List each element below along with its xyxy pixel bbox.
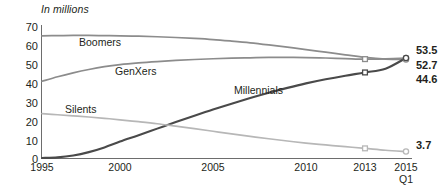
end-marker-silents	[403, 149, 408, 154]
series-label-genxers: GenXers	[115, 66, 156, 77]
end-value-genxers: 44.6	[416, 74, 437, 85]
x-tick-2013-label: 2013	[353, 161, 376, 173]
end-value-silents: 3.7	[416, 140, 431, 151]
marker-2013-genxers	[363, 57, 368, 62]
series-label-millennials: Millennials	[234, 85, 283, 96]
x-tick-2015-quarter: Q1	[390, 173, 422, 185]
x-tick-1995: 1995	[26, 161, 58, 173]
x-tick-2010: 2010	[290, 161, 322, 173]
end-marker-millennials	[403, 55, 408, 60]
x-tick-2015: 2015 Q1	[390, 161, 422, 185]
series-line-genxers	[42, 57, 406, 81]
end-value-boomers: 52.7	[416, 60, 437, 71]
series-line-silents	[42, 114, 406, 152]
series-line-millennials	[42, 58, 406, 158]
x-tick-2010-label: 2010	[294, 161, 317, 173]
x-tick-2005: 2005	[197, 161, 229, 173]
chart-data-markers	[363, 55, 409, 154]
x-tick-2015-label: 2015	[394, 161, 417, 173]
x-tick-2000: 2000	[104, 161, 136, 173]
x-tick-2005-label: 2005	[201, 161, 224, 173]
chart-container: In millions 70 60 50 40 30 20 10 0 Boome…	[0, 0, 441, 189]
chart-series-lines	[42, 35, 406, 158]
marker-2013-millennials	[363, 70, 368, 75]
series-label-boomers: Boomers	[79, 37, 121, 48]
end-value-millennials: 53.5	[416, 45, 437, 56]
x-tick-2013: 2013	[349, 161, 381, 173]
x-tick-1995-label: 1995	[30, 161, 53, 173]
series-label-silents: Silents	[65, 104, 97, 115]
x-tick-2000-label: 2000	[108, 161, 131, 173]
marker-2013-silents	[363, 146, 368, 151]
